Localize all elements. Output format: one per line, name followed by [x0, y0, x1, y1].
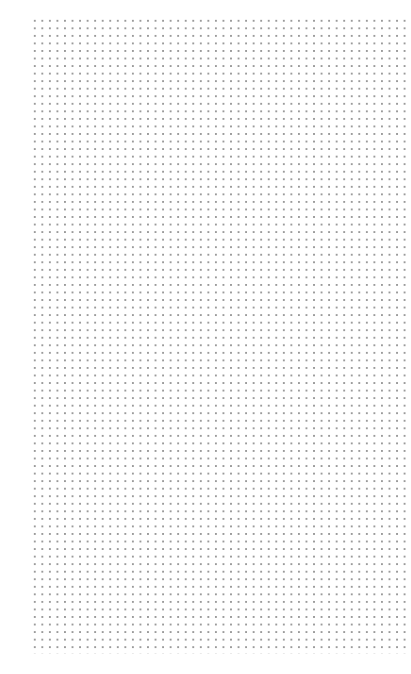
- dot-grid-canvas: [31, 17, 407, 654]
